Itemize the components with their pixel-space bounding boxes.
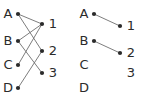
matching-label-1: 1 (127, 18, 135, 33)
vertex-1[interactable] (40, 22, 44, 26)
edge-group-left (18, 14, 42, 88)
edge-c-1 (18, 24, 42, 65)
matching-vertex-a[interactable] (92, 12, 96, 16)
bipartite-graph-figure: A B C D 1 2 3 (0, 0, 145, 104)
matching-label-c: C (79, 57, 88, 72)
vertex-3[interactable] (40, 71, 44, 75)
panel-bipartite-graph-matching: A B C D 1 2 3 (79, 6, 135, 95)
vertex-group-left-column (16, 12, 20, 90)
label-1: 1 (49, 16, 57, 31)
label-group-left-column: A B C D (3, 6, 13, 95)
matching-label-b: B (80, 33, 89, 48)
matching-edge-b-2 (94, 41, 120, 53)
matching-vertex-1[interactable] (118, 24, 122, 28)
label-a: A (4, 6, 13, 21)
vertex-2[interactable] (40, 49, 44, 53)
matching-label-group-left-column: A B C D (79, 6, 89, 95)
label-d: D (3, 80, 13, 95)
vertex-a[interactable] (16, 12, 20, 16)
matching-label-a: A (80, 6, 89, 21)
edge-group-right (94, 14, 120, 53)
matching-edge-a-1 (94, 14, 120, 26)
matching-label-d: D (79, 80, 89, 95)
matching-vertex-group-right-column (118, 24, 122, 55)
edge-b-1 (18, 24, 42, 41)
matching-label-group-right-column: 1 2 3 (127, 18, 135, 80)
panel-bipartite-graph-full: A B C D 1 2 3 (3, 6, 57, 95)
matching-label-2: 2 (127, 45, 135, 60)
matching-vertex-2[interactable] (118, 51, 122, 55)
label-b: B (4, 33, 13, 48)
matching-vertex-group-left-column (92, 12, 96, 43)
label-c: C (3, 57, 12, 72)
label-3: 3 (49, 65, 57, 80)
vertex-d[interactable] (16, 86, 20, 90)
label-2: 2 (49, 43, 57, 58)
label-group-right-column: 1 2 3 (49, 16, 57, 80)
matching-label-3: 3 (127, 65, 135, 80)
vertex-c[interactable] (16, 63, 20, 67)
vertex-b[interactable] (16, 39, 20, 43)
matching-vertex-b[interactable] (92, 39, 96, 43)
figure-canvas: A B C D 1 2 3 (0, 0, 145, 104)
